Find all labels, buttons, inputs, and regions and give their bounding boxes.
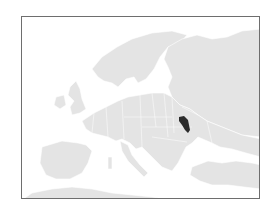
locator-map: Location of Moldova in Europe xyxy=(21,16,260,199)
turkey xyxy=(190,161,260,189)
iberia xyxy=(40,141,92,179)
europe-map xyxy=(22,17,260,199)
north-africa xyxy=(22,187,172,199)
great-britain xyxy=(68,81,86,115)
sardinia xyxy=(108,157,112,169)
ireland xyxy=(54,95,66,109)
